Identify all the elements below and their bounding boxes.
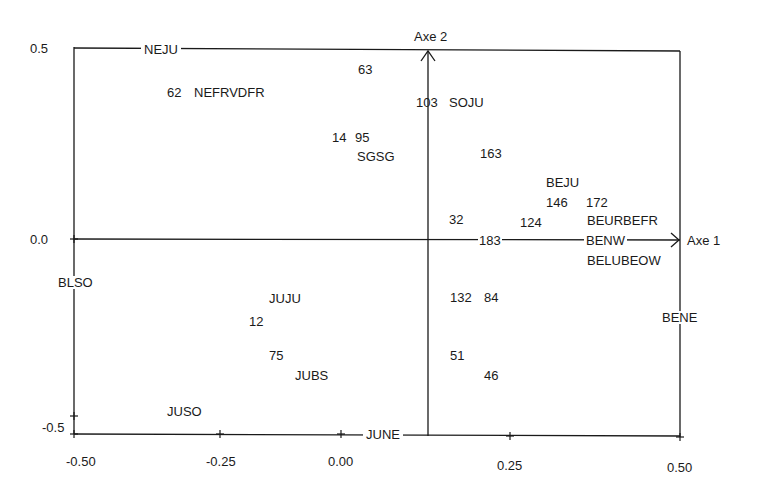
point-label: JUBS — [295, 369, 328, 382]
point-label: BENE — [659, 311, 700, 324]
point-label: BEJU — [546, 176, 579, 189]
point-label: BEURBEFR — [587, 214, 658, 227]
x-tick-neg0.25: -0.25 — [206, 455, 236, 468]
point-label: 12 — [249, 315, 263, 328]
point-label: JUJU — [269, 292, 301, 305]
chart-frame — [0, 0, 758, 501]
point-label: BLSO — [57, 276, 94, 289]
point-label: 14 — [332, 131, 346, 144]
x-tick-0.50: 0.50 — [667, 461, 692, 474]
point-label: 183 — [478, 234, 502, 247]
y-tick-neg0.5: -0.5 — [42, 421, 64, 434]
point-label: BELUBEOW — [587, 254, 661, 267]
axis-1-label: Axe 1 — [687, 234, 720, 247]
x-tick-0.00: 0.00 — [328, 455, 353, 468]
point-label: 62 — [167, 86, 181, 99]
point-label: NEJU — [141, 43, 181, 56]
point-label: 103 — [416, 96, 438, 109]
point-label: 32 — [449, 213, 463, 226]
point-label: 75 — [269, 349, 283, 362]
point-label: 84 — [484, 291, 498, 304]
point-label: SOJU — [449, 96, 484, 109]
y-tick-0.0: 0.0 — [30, 233, 48, 246]
point-label: 51 — [450, 349, 464, 362]
y-tick-0.5: 0.5 — [30, 42, 48, 55]
point-label: SGSG — [357, 150, 395, 163]
point-label: 163 — [480, 147, 502, 160]
point-label: 146 — [546, 196, 568, 209]
point-label: BENW — [584, 234, 627, 247]
axis-2-label: Axe 2 — [414, 30, 447, 43]
point-label: 124 — [520, 216, 542, 229]
point-label: 63 — [358, 63, 372, 76]
x-tick-neg0.50: -0.50 — [66, 455, 96, 468]
point-label: 172 — [586, 196, 608, 209]
point-label: 46 — [484, 369, 498, 382]
x-tick-0.25: 0.25 — [497, 459, 522, 472]
point-label: JUNE — [363, 428, 403, 441]
point-label: 95 — [355, 131, 369, 144]
point-label: 132 — [450, 291, 472, 304]
point-label: NEFRVDFR — [194, 86, 265, 99]
point-label: JUSO — [167, 405, 202, 418]
